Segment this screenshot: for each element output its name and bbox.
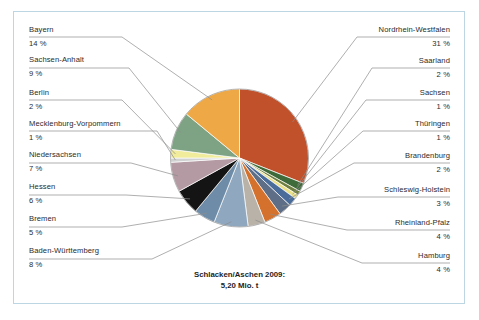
callout-sachsen: Sachsen 1 % <box>420 89 450 111</box>
callout-label-name: Thüringen <box>415 120 450 128</box>
callout-label-name: Rheinland-Pfalz <box>395 219 450 227</box>
caption-line-1: Schlacken/Aschen 2009: <box>0 270 479 281</box>
callout-label-pct: 1 % <box>29 134 121 142</box>
callout-niedersachsen: Niedersachsen 7 % <box>29 151 81 173</box>
callout-label-pct: 2 % <box>29 103 49 111</box>
callout-label-name: Sachsen <box>420 89 450 97</box>
callout-label-name: Niedersachsen <box>29 151 81 159</box>
callout-label-pct: 4 % <box>395 233 450 241</box>
callout-nordrhein-westfalen: Nordrhein-Westfalen 31 % <box>379 26 450 48</box>
callout-thueringen: Thüringen 1 % <box>415 120 450 142</box>
callout-label-pct: 1 % <box>415 134 450 142</box>
callout-label-name: Hessen <box>29 183 55 191</box>
callout-label-pct: 6 % <box>29 197 55 205</box>
callout-label-name: Brandenburg <box>405 152 450 160</box>
callout-label-pct: 31 % <box>379 40 450 48</box>
callout-label-name: Baden-Württemberg <box>29 247 99 255</box>
caption-line-2: 5,20 Mio. t <box>0 281 479 292</box>
callout-baden-wuerttemberg: Baden-Württemberg 8 % <box>29 247 99 269</box>
callout-sachsen-anhalt: Sachsen-Anhalt 9 % <box>29 56 84 78</box>
callout-label-name: Sachsen-Anhalt <box>29 56 84 64</box>
callout-label-name: Berlin <box>29 89 49 97</box>
callout-bremen: Bremen 5 % <box>29 215 56 237</box>
callout-schleswig-holstein: Schleswig-Holstein 3 % <box>384 186 450 208</box>
callout-label-pct: 2 % <box>405 166 450 174</box>
callout-berlin: Berlin 2 % <box>29 89 49 111</box>
callout-label-pct: 3 % <box>384 200 450 208</box>
callout-label-name: Bayern <box>29 26 54 34</box>
callout-label-pct: 1 % <box>420 103 450 111</box>
callout-leader-line <box>295 100 450 191</box>
callout-label-name: Nordrhein-Westfalen <box>379 26 450 34</box>
callout-label-pct: 7 % <box>29 165 81 173</box>
callout-saarland: Saarland 2 % <box>419 57 450 79</box>
callout-label-pct: 5 % <box>29 229 56 237</box>
callout-label-name: Saarland <box>419 57 450 65</box>
callout-label-name: Hamburg <box>418 252 450 260</box>
callout-rheinland-pfalz: Rheinland-Pfalz 4 % <box>395 219 450 241</box>
callout-label-name: Bremen <box>29 215 56 223</box>
callout-label-name: Mecklenburg-Vorpommern <box>29 120 121 128</box>
callout-bayern: Bayern 14 % <box>29 26 54 48</box>
callout-hessen: Hessen 6 % <box>29 183 55 205</box>
chart-caption: Schlacken/Aschen 2009: 5,20 Mio. t <box>0 270 479 291</box>
callout-label-pct: 9 % <box>29 70 84 78</box>
callout-label-pct: 2 % <box>419 71 450 79</box>
callout-mecklenburg-vorpommern: Mecklenburg-Vorpommern 1 % <box>29 120 121 142</box>
callout-brandenburg: Brandenburg 2 % <box>405 152 450 174</box>
callout-label-pct: 8 % <box>29 261 99 269</box>
figure-root: Bayern 14 % Sachsen-Anhalt 9 % Berlin 2 … <box>0 0 479 320</box>
callout-label-name: Schleswig-Holstein <box>384 186 450 194</box>
callout-label-pct: 14 % <box>29 40 54 48</box>
